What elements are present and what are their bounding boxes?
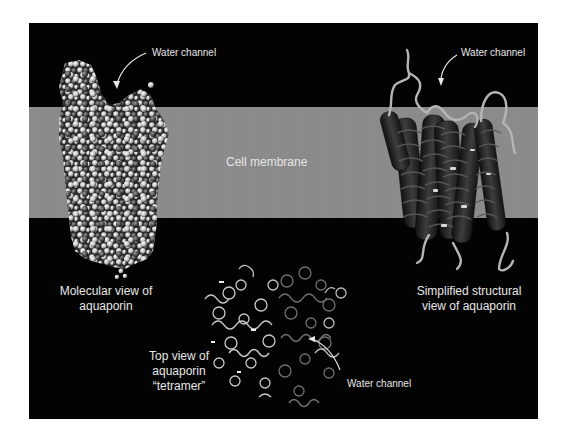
structural-view-caption: Simplified structural view of aquaporin [407,284,531,314]
structural-view-caption-line2: view of aquaporin [407,299,531,314]
top-view-caption: Top view of aquaporin “tetramer” [144,349,214,394]
structural-view-caption-line1: Simplified structural [407,284,531,299]
water-channel-label-top: Water channel [347,378,411,390]
top-view-caption-line2: aquaporin [144,364,214,379]
cell-membrane-label: Cell membrane [226,155,307,170]
figure-panel: Water channel Water channel Cell membran… [29,23,538,419]
top-view-caption-line3: “tetramer” [144,379,214,394]
molecular-view-caption-line1: Molecular view of [56,284,156,299]
molecular-view-caption-line2: aquaporin [56,299,156,314]
top-view-illustration [29,23,538,419]
water-channel-label-molecular: Water channel [152,47,216,59]
top-view-caption-line1: Top view of [144,349,214,364]
water-channel-label-structural: Water channel [461,47,525,59]
molecular-view-caption: Molecular view of aquaporin [56,284,156,314]
